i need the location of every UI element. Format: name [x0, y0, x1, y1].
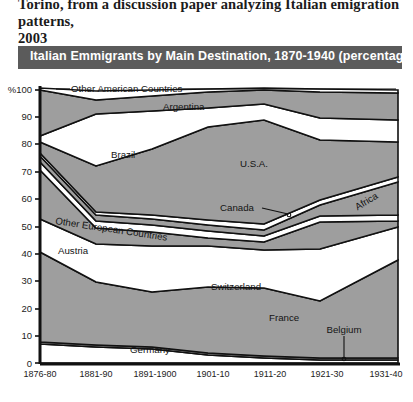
label-germany: Germany [130, 344, 170, 355]
x-tick-1921-30: 1921-30 [310, 369, 343, 378]
chart-title: Italian Emmigrants by Main Destination, … [30, 49, 413, 63]
label-austria: Austria [58, 245, 89, 256]
figure-page: Torino, from a discussion paper analyzin… [0, 0, 413, 402]
stacked-area-chart: %100 90 80 70 60 50 40 30 20 10 0 1876-8… [0, 78, 413, 378]
label-belgium: Belgium [327, 324, 362, 335]
y-tick-60: 60 [21, 193, 32, 204]
y-tick-70: 70 [21, 166, 32, 177]
x-tick-1881-90: 1881-90 [79, 369, 112, 378]
figure-caption: Torino, from a discussion paper analyzin… [18, 0, 408, 47]
x-axis-labels: 1876-80 1881-90 1891-1900 1901-10 1911-2… [23, 369, 402, 378]
label-canada: Canada [220, 202, 255, 213]
label-switzerland: Switzerland [211, 281, 261, 292]
y-tick-90: 90 [21, 111, 32, 122]
label-france: France [269, 312, 299, 323]
y-axis-labels: %100 90 80 70 60 50 40 30 20 10 0 [8, 84, 32, 369]
y-tick-20: 20 [21, 303, 32, 314]
chart-title-bar: Italian Emmigrants by Main Destination, … [18, 46, 402, 69]
y-tick-80: 80 [21, 138, 32, 149]
caption-line-2: 2003 [18, 30, 408, 47]
label-brazil: Brazil [111, 149, 135, 160]
x-tick-1931-40: 1931-40 [369, 369, 402, 378]
label-other-american-countries: Other American Countries [71, 83, 183, 94]
y-tick-100: %100 [8, 84, 32, 95]
y-tick-40: 40 [21, 248, 32, 259]
y-tick-10: 10 [21, 330, 32, 341]
x-tick-1891-1900: 1891-1900 [133, 369, 176, 378]
x-tick-1876-80: 1876-80 [23, 369, 56, 378]
x-tick-1911-20: 1911-20 [254, 369, 286, 378]
y-tick-0: 0 [27, 358, 32, 369]
label-argentina: Argentina [163, 101, 205, 112]
y-tick-50: 50 [21, 221, 32, 232]
y-tick-30: 30 [21, 275, 32, 286]
label-usa: U.S.A. [240, 158, 268, 169]
caption-line-1: Torino, from a discussion paper analyzin… [18, 0, 399, 29]
chart-area: %100 90 80 70 60 50 40 30 20 10 0 1876-8… [0, 78, 413, 378]
x-tick-1901-10: 1901-10 [196, 369, 229, 378]
